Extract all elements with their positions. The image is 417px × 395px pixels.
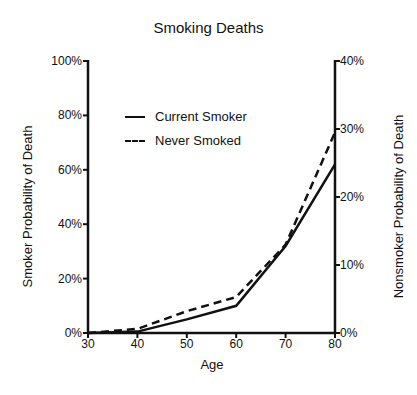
y-tick-label-right: 40% — [340, 54, 380, 68]
legend-label: Current Smoker — [155, 109, 247, 124]
x-axis-label: Age — [188, 357, 236, 372]
x-tick-label: 60 — [221, 337, 251, 351]
y-tick-label-right: 20% — [340, 190, 380, 204]
x-tick-label: 30 — [73, 337, 103, 351]
series-line-never-smoked — [88, 132, 335, 333]
x-tick-label: 40 — [122, 337, 152, 351]
y-tick-label-left: 80% — [42, 108, 82, 122]
y-axis-label-right: Nonsmoker Probability of Death — [391, 107, 406, 307]
dashed-line-swatch-icon — [125, 140, 145, 142]
y-axis-label-left: Smoker Probability of Death — [20, 107, 35, 307]
y-tick-label-left: 100% — [42, 54, 82, 68]
x-tick-label: 80 — [320, 337, 350, 351]
series-line-current-smoker — [88, 164, 335, 333]
y-tick-label-right: 10% — [340, 258, 380, 272]
y-tick-label-right: 30% — [340, 122, 380, 136]
axes — [83, 60, 340, 338]
legend-item-current-smoker: Current Smoker — [125, 109, 247, 124]
x-tick-label: 50 — [172, 337, 202, 351]
y-tick-label-left: 60% — [42, 163, 82, 177]
legend-label: Never Smoked — [155, 133, 241, 148]
solid-line-swatch-icon — [125, 116, 145, 118]
x-tick-label: 70 — [271, 337, 301, 351]
y-tick-label-left: 20% — [42, 272, 82, 286]
legend-item-never-smoked: Never Smoked — [125, 133, 241, 148]
y-tick-label-left: 40% — [42, 217, 82, 231]
data-lines — [88, 132, 335, 333]
